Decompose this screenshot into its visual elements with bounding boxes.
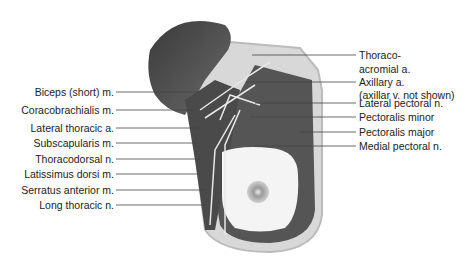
- label-pectoralis-major: Pectoralis major: [359, 126, 434, 138]
- label-serratus-anterior: Serratus anterior m.: [21, 184, 114, 196]
- label-pectoralis-minor: Pectoralis minor: [359, 111, 434, 123]
- label-biceps-short: Biceps (short) m.: [35, 86, 114, 98]
- nipple-areola: [247, 181, 269, 203]
- label-coracobrachialis: Coracobrachialis m.: [21, 104, 114, 116]
- label-thoracoacromial-line2: acromial a.: [359, 63, 410, 75]
- label-medial-pectoral-nerve: Medial pectoral n.: [359, 140, 442, 152]
- label-thoracoacromial-line1: Thoraco-: [359, 49, 401, 61]
- label-axillary-artery: Axillary a.: [359, 76, 405, 88]
- label-latissimus-dorsi: Latissimus dorsi m.: [24, 168, 114, 180]
- label-subscapularis: Subscapularis m.: [33, 137, 114, 149]
- label-lateral-pectoral-nerve: Lateral pectoral n.: [359, 97, 443, 109]
- label-thoracodorsal-nerve: Thoracodorsal n.: [35, 153, 114, 165]
- label-lateral-thoracic-artery: Lateral thoracic a.: [31, 122, 114, 134]
- label-long-thoracic-nerve: Long thoracic n.: [39, 199, 114, 211]
